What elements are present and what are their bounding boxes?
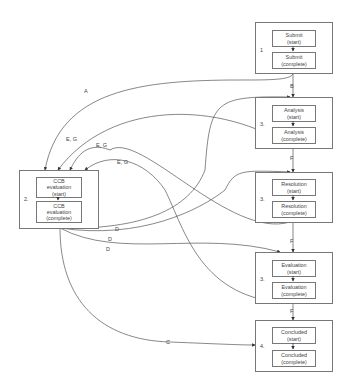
workflow-diagram: A B C D D D E, G E, G E, G F F F H H H 1… — [0, 0, 353, 388]
stage-submit: 1 Submit (start) Submit (complete) — [255, 22, 333, 74]
edge-label-eg2: E, G — [96, 142, 107, 148]
state-evaluation-start: Evaluation (start) — [272, 260, 316, 277]
edge-label-eg3: E, G — [117, 159, 128, 165]
label: (complete) — [281, 291, 306, 297]
label: (start) — [52, 191, 66, 197]
stage-number: 3. — [260, 196, 265, 202]
stage-ccb-evaluation: 2. CCB evaluation (start) CCB evaluation… — [19, 170, 99, 229]
state-concluded-complete: Concluded (complete) — [272, 350, 316, 367]
stage-number: 2. — [24, 196, 29, 202]
label: (complete) — [281, 359, 306, 365]
state-concluded-start: Concluded (start) — [272, 327, 316, 344]
state-analysis-start: Analysis (start) — [272, 105, 316, 122]
label: (complete) — [46, 215, 71, 221]
label: (start) — [287, 39, 301, 45]
edge-label-d1: D — [115, 226, 119, 232]
edge-label-f3: F — [290, 308, 294, 314]
label: (start) — [287, 114, 301, 120]
state-submit-start: Submit (start) — [272, 30, 316, 47]
label: (complete) — [281, 136, 306, 142]
stage-number: 4. — [260, 343, 265, 349]
stage-analysis: 3. Analysis (start) Analysis (complete) — [255, 97, 333, 149]
stage-number: 3. — [260, 276, 265, 282]
state-submit-complete: Submit (complete) — [272, 52, 316, 69]
stage-number: 1 — [260, 47, 263, 53]
stage-number: 3. — [260, 121, 265, 127]
edge-label-f1: F — [290, 155, 294, 161]
edge-label-eg1: E, G — [66, 136, 77, 142]
edge-label-f2: F — [290, 238, 294, 244]
state-ccb-start: CCB evaluation (start) — [36, 177, 82, 198]
state-ccb-complete: CCB evaluation (complete) — [36, 201, 82, 223]
edge-label-a: A — [84, 88, 88, 94]
edge-label-d2: D — [108, 236, 112, 242]
stage-resolution: 3. Resolution (start) Resolution (comple… — [255, 172, 333, 223]
state-resolution-start: Resolution (start) — [272, 179, 316, 196]
state-analysis-complete: Analysis (complete) — [272, 127, 316, 144]
edge-c — [60, 228, 255, 345]
edge-label-c: C — [166, 339, 170, 345]
label: (start) — [287, 269, 301, 275]
label: (complete) — [281, 61, 306, 67]
state-resolution-complete: Resolution (complete) — [272, 201, 316, 218]
stage-evaluation: 3. Evaluation (start) Evaluation (comple… — [255, 252, 333, 304]
label: (complete) — [281, 210, 306, 216]
label: (start) — [287, 188, 301, 194]
stage-concluded: 4. Concluded (start) Concluded (complete… — [255, 320, 333, 372]
label: (start) — [287, 336, 301, 342]
edge-label-d3: D — [106, 246, 110, 252]
edge-label-b: B — [290, 83, 294, 89]
state-evaluation-complete: Evaluation (complete) — [272, 282, 316, 299]
edge-ccb-evaluation — [60, 228, 280, 252]
